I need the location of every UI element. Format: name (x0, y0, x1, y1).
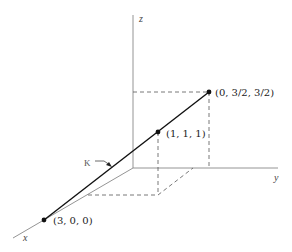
x-axis (13, 168, 133, 238)
curve-label-k: K (84, 158, 91, 168)
point-label-3-0-0: (3, 0, 0) (53, 215, 93, 226)
point-label-1-1-1: (1, 1, 1) (166, 128, 206, 139)
x-axis-label: x (22, 232, 28, 243)
3d-line-diagram: z y x K (0, 3/2, 3/2) (1, 1, 1) (3, 0, 0… (0, 0, 292, 252)
point-0-3/2-3/2 (207, 90, 212, 95)
projection-lines (88, 92, 209, 195)
z-axis-label: z (138, 13, 143, 24)
point-3-0-0 (42, 218, 47, 223)
line-k (44, 92, 209, 220)
point-1-1-1 (156, 130, 161, 135)
point-label-0-3/2-3/2: (0, 3/2, 3/2) (215, 87, 274, 98)
y-axis-label: y (273, 172, 279, 183)
